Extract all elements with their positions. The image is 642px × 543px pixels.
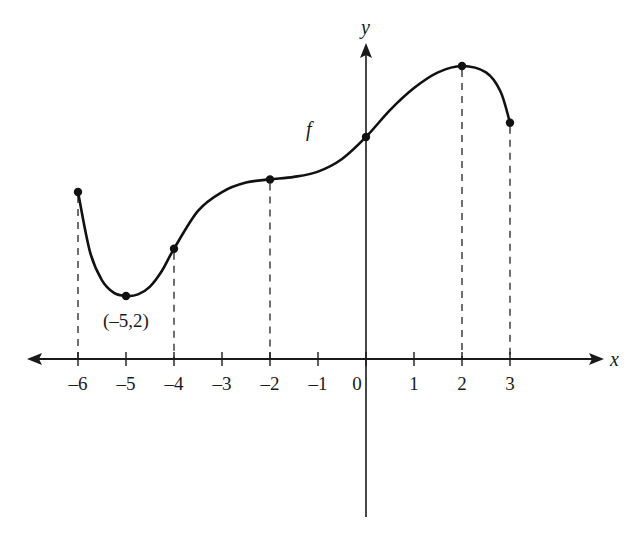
x-tick-label: 3 xyxy=(505,373,515,394)
function-label: f xyxy=(306,118,314,141)
x-tick-label: –2 xyxy=(260,373,280,394)
function-graph: –6–5–4–3–2–10123 x y f (–5,2) xyxy=(0,0,642,543)
x-tick-label: –6 xyxy=(68,373,88,394)
marked-point xyxy=(458,62,466,70)
function-curve xyxy=(78,66,510,296)
x-tick-label: –5 xyxy=(116,373,136,394)
x-tick-label: 1 xyxy=(409,373,419,394)
x-axis-label: x xyxy=(609,348,619,370)
marked-point xyxy=(170,245,178,253)
marked-point xyxy=(362,133,370,141)
marked-point xyxy=(74,188,82,196)
y-axis-label: y xyxy=(359,16,370,39)
x-axis: –6–5–4–3–2–10123 x xyxy=(27,348,619,394)
marked-point xyxy=(506,119,514,127)
y-axis: y xyxy=(359,16,372,517)
x-tick-label: –4 xyxy=(164,373,185,394)
x-tick-label: –1 xyxy=(308,373,328,394)
point-label-minimum: (–5,2) xyxy=(103,310,149,332)
x-tick-label: 0 xyxy=(352,373,362,394)
marked-point xyxy=(266,175,274,183)
x-tick-label: –3 xyxy=(212,373,232,394)
marked-point xyxy=(122,292,130,300)
x-tick-label: 2 xyxy=(457,373,467,394)
marked-points xyxy=(74,62,514,300)
